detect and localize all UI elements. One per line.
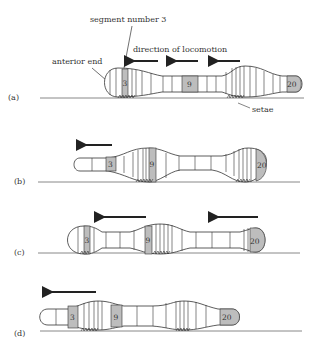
setae-label: setae (252, 105, 274, 114)
panel-label-b: (b) (14, 177, 25, 186)
panel-b: (b) 3 9 20 (14, 145, 300, 186)
segment-pointer-line (124, 26, 132, 68)
segment-9-label: 9 (150, 160, 155, 169)
segment-20-label: 20 (287, 80, 297, 89)
worm-body (68, 224, 266, 254)
panel-label-a: (a) (8, 93, 19, 102)
panel-label-d: (d) (14, 329, 25, 338)
segment-20-label: 20 (222, 313, 232, 322)
segment-number-label: segment number 3 (90, 15, 166, 24)
segment-3-label: 3 (70, 313, 75, 322)
setae-pointer-line (238, 103, 250, 108)
segment-9-label: 9 (146, 236, 151, 245)
worm-body (74, 148, 266, 182)
segment-20-label: 20 (257, 161, 267, 170)
panel-d: (d) 3 9 20 (14, 292, 302, 338)
segment-3-label: 3 (108, 160, 113, 169)
worm-body (105, 66, 303, 97)
panel-c: (c) 3 9 20 (14, 217, 300, 257)
anterior-end-label: anterior end (52, 57, 102, 66)
segment-9-label: 9 (114, 313, 119, 322)
panel-label-c: (c) (14, 248, 25, 257)
segment-3-label: 3 (123, 79, 128, 88)
earthworm-locomotion-diagram: segment number 3 direction of locomotion… (0, 0, 317, 350)
segment-9-label: 9 (187, 80, 192, 89)
segment-3-label: 3 (85, 236, 90, 245)
segment-20-label: 20 (250, 237, 260, 246)
anterior-pointer-line (92, 68, 106, 80)
direction-label: direction of locomotion (133, 45, 227, 54)
panel-a: segment number 3 direction of locomotion… (8, 15, 304, 114)
